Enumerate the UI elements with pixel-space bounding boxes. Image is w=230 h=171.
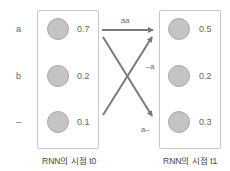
edge-label-blank-a: –a	[146, 62, 154, 71]
edge-label-aa: aa	[121, 16, 129, 25]
transition-arrows	[0, 0, 230, 171]
edge-label-a-blank: a–	[141, 125, 149, 134]
